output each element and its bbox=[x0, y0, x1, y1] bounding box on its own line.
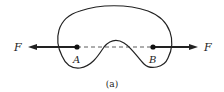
point-label-a: A bbox=[72, 54, 80, 65]
arrowhead-left-icon bbox=[28, 44, 37, 50]
point-b-dot bbox=[150, 44, 155, 49]
force-label-left: F bbox=[13, 41, 22, 54]
force-label-right: F bbox=[203, 41, 212, 54]
arrowhead-right-icon bbox=[189, 44, 198, 50]
point-a-dot bbox=[74, 44, 79, 49]
figure-caption: (a) bbox=[106, 79, 118, 89]
point-label-b: B bbox=[148, 54, 156, 65]
diagram: F F A B (a) bbox=[0, 0, 224, 92]
